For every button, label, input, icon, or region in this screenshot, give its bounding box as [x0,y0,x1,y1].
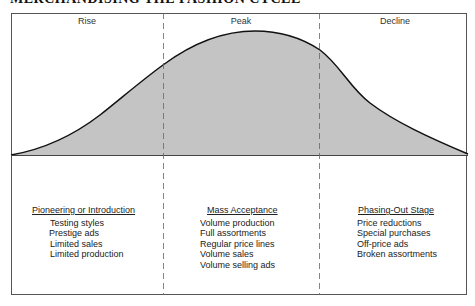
stage-phasing-out: Phasing-Out Stage Price reductions Speci… [357,205,437,260]
stage-item: Special purchases [357,228,437,239]
stage-item: Volume selling ads [200,260,278,271]
stage-introduction: Pioneering or Introduction Testing style… [32,205,135,260]
stage-heading: Pioneering or Introduction [32,205,135,216]
stage-item: Testing styles [50,218,135,229]
curve-area [11,31,468,155]
phase-label-decline: Decline [320,16,470,26]
stage-item: Full assortments [200,228,278,239]
stage-heading: Phasing-Out Stage [357,205,437,216]
stage-heading: Mass Acceptance [200,205,278,216]
stage-mass-acceptance: Mass Acceptance Volume production Full a… [200,205,278,270]
stage-list: Price reductions Special purchases Off-p… [357,218,437,260]
stage-item: Volume sales [200,249,278,260]
stage-item: Regular price lines [200,239,278,250]
stage-item: Off-price ads [357,239,437,250]
phase-label-rise: Rise [12,16,162,26]
stage-item: Volume production [200,218,278,229]
stage-item: Prestige ads [49,228,135,239]
stage-item: Limited sales [50,239,135,250]
stage-item: Broken assortments [357,249,437,260]
stage-item: Limited production [50,249,135,260]
stage-item: Price reductions [357,218,437,229]
stage-list: Testing styles Prestige ads Limited sale… [32,218,135,260]
phase-label-peak: Peak [166,16,316,26]
stage-list: Volume production Full assortments Regul… [200,218,278,271]
